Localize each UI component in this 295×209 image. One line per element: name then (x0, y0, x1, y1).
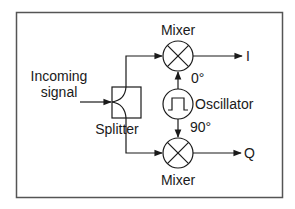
mixer-top-label: Mixer (161, 22, 196, 38)
incoming-signal-label-line2: signal (41, 84, 78, 100)
phase-0-label: 0° (191, 70, 204, 86)
mixer-top-icon (163, 41, 193, 71)
output-i-label: I (246, 48, 250, 64)
mixer-bottom-icon (163, 138, 193, 168)
output-q-label: Q (244, 145, 255, 161)
iq-demodulator-diagram: Incoming signal Splitter Mixer I Mixer Q… (0, 0, 295, 209)
splitter (112, 87, 141, 118)
splitter-label: Splitter (95, 121, 139, 137)
mixer-bottom-label: Mixer (161, 172, 196, 188)
incoming-signal-label-line1: Incoming (31, 68, 88, 84)
splitter-to-top-mixer (126, 56, 162, 87)
phase-90-label: 90° (190, 119, 211, 135)
oscillator-icon (163, 89, 193, 119)
oscillator-label: Oscillator (195, 96, 254, 112)
